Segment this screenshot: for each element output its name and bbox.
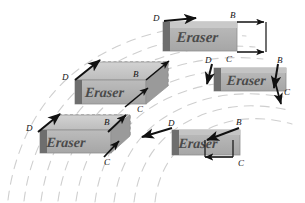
diagram-svg: Eraser Eraser Eraser [0,0,305,203]
diagram-canvas: Eraser Eraser Eraser [0,0,305,203]
label-b-eraser-middle-right: B [277,56,283,65]
label-d-eraser-bottom-middle: D [168,119,175,128]
eraser-bottom-left: Eraser [38,114,130,157]
label-b-eraser-top: B [230,11,236,20]
eraser-word: Eraser [225,73,266,88]
eraser-word: Eraser [175,29,219,45]
label-d-eraser-bottom-left: D [26,124,33,133]
label-d-eraser-middle-right: D [205,56,212,65]
eraser-bottom-middle: Eraser [142,128,240,157]
vector-d-arrow [164,18,196,21]
label-b-eraser-bottom-middle: B [236,118,242,127]
label-b-eraser-middle-left: B [133,70,139,79]
vector-d-arrow [207,64,212,84]
eraser-word: Eraser [84,85,125,100]
eraser-word: Eraser [45,135,86,150]
eraser-middle-right: Eraser [207,64,286,104]
vector-d-arrow [142,128,172,137]
label-c-eraser-top: C [226,55,232,64]
label-d-eraser-middle-left: D [62,73,69,82]
label-b-eraser-bottom-left: B [104,118,110,127]
label-c-eraser-middle-left: C [137,105,143,114]
label-d-eraser-top: D [153,14,160,23]
label-c-eraser-bottom-left: C [104,158,110,167]
label-c-eraser-middle-right: C [284,88,290,97]
eraser-middle-left: Eraser [75,60,169,107]
label-c-eraser-bottom-middle: C [238,159,244,168]
